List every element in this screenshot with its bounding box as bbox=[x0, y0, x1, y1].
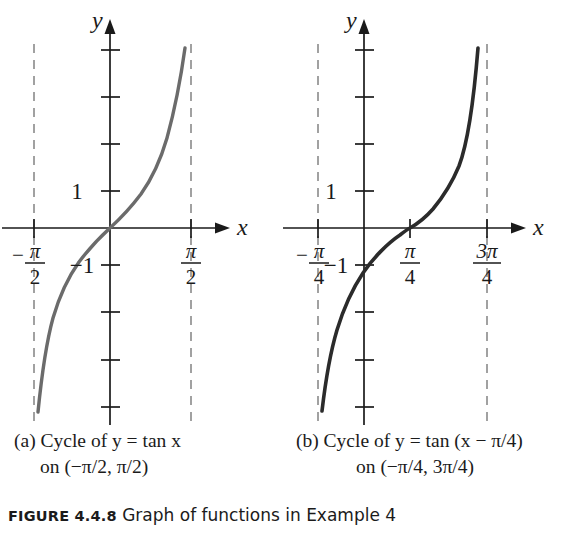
y-tick-label-pos1-b: 1 bbox=[325, 179, 337, 204]
figure-description: Graph of functions in Example 4 bbox=[122, 505, 396, 525]
caption-panel-b: (b) Cycle of y = tan (x − π/4) on (−π/4,… bbox=[296, 428, 523, 480]
panel-a-graph-tan-x: y x 1 −1 − π 2 π 2 bbox=[0, 0, 281, 430]
y-axis-arrow-b bbox=[359, 19, 370, 34]
x-axis-arrow-a bbox=[215, 223, 230, 234]
caption-b-line1: (b) Cycle of y = tan (x − π/4) bbox=[296, 430, 523, 451]
x-tick-label-pi-over-2-a: π 2 bbox=[181, 239, 201, 289]
panel-a-svg: y x 1 −1 − π 2 π 2 bbox=[0, 0, 281, 430]
caption-b-line2: on (−π/4, 3π/4) bbox=[296, 454, 523, 480]
figure-caption: FIGURE 4.4.8 Graph of functions in Examp… bbox=[8, 505, 562, 525]
x-tick-denominator-b2: 4 bbox=[482, 265, 493, 289]
y-tick-label-neg1-b: −1 bbox=[324, 253, 348, 278]
x-tick-label-neg-pi-over-2-a: − π 2 bbox=[12, 239, 45, 289]
panel-b-graph-tan-x-minus-pi-over-4: y x 1 −1 − π 4 π 4 bbox=[281, 0, 562, 430]
x-tick-label-pi-over-4-b: π 4 bbox=[400, 239, 420, 289]
caption-a-line1: (a) Cycle of y = tan x bbox=[14, 430, 181, 451]
x-tick-denominator-a1: 2 bbox=[186, 265, 197, 289]
x-axis-label-b: x bbox=[532, 214, 544, 240]
figure-container: y x 1 −1 − π 2 π 2 bbox=[0, 0, 562, 534]
caption-panel-a: (a) Cycle of y = tan x on (−π/2, π/2) bbox=[14, 428, 181, 480]
y-axis-label-b: y bbox=[344, 7, 357, 33]
caption-a-line2: on (−π/2, π/2) bbox=[14, 454, 181, 480]
x-tick-numerator-b2: 3π bbox=[475, 239, 498, 263]
y-axis-arrow-a bbox=[105, 19, 116, 34]
panels-row: y x 1 −1 − π 2 π 2 bbox=[0, 0, 562, 430]
panel-captions: (a) Cycle of y = tan x on (−π/2, π/2) (b… bbox=[0, 428, 562, 498]
curve-tan-x-minus-pi-over-4 bbox=[322, 48, 478, 411]
x-axis-arrow-b bbox=[511, 223, 526, 234]
curve-tan-x bbox=[38, 48, 185, 412]
x-tick-numerator-a1: π bbox=[186, 239, 197, 263]
x-tick-label-3pi-over-4-b: 3π 4 bbox=[473, 239, 501, 289]
x-tick-denominator-b1: 4 bbox=[405, 265, 416, 289]
x-tick-numerator-a0: π bbox=[30, 239, 41, 263]
x-axis-label-a: x bbox=[236, 214, 248, 240]
x-tick-sign-b0: − bbox=[296, 243, 308, 267]
x-tick-denominator-b0: 4 bbox=[314, 265, 325, 289]
figure-number: FIGURE 4.4.8 bbox=[8, 508, 117, 524]
x-tick-denominator-a0: 2 bbox=[30, 265, 41, 289]
y-tick-label-pos1-a: 1 bbox=[71, 179, 83, 204]
x-tick-numerator-b1: π bbox=[405, 239, 416, 263]
y-axis-label-a: y bbox=[90, 7, 103, 33]
y-tick-label-neg1-a: −1 bbox=[70, 253, 94, 278]
x-tick-sign-a0: − bbox=[12, 243, 24, 267]
panel-b-svg: y x 1 −1 − π 4 π 4 bbox=[281, 0, 562, 430]
x-tick-numerator-b0: π bbox=[314, 239, 325, 263]
